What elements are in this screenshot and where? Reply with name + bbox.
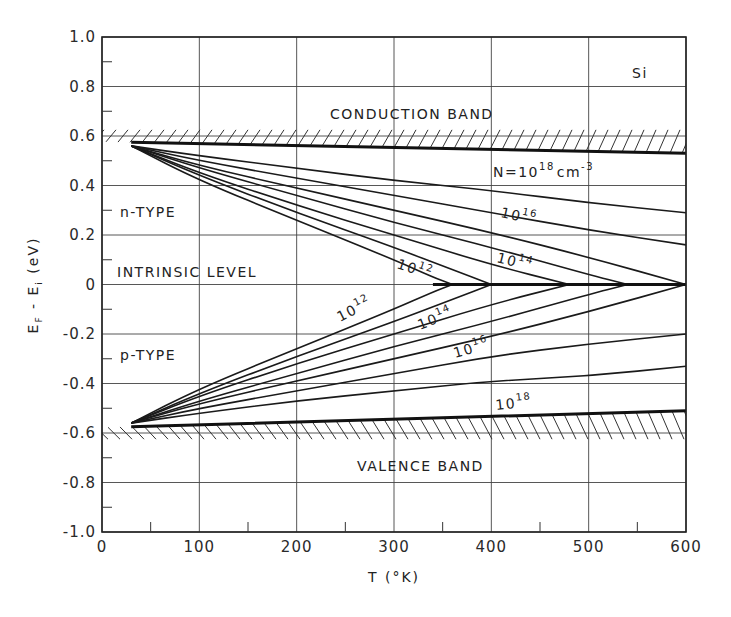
y-tick-label: -0.4 [63, 375, 96, 393]
y-tick-label: 0.8 [69, 78, 96, 96]
hatch-line [444, 418, 456, 440]
hatch-line [168, 426, 180, 440]
n-type-curve-1e18 [131, 146, 686, 213]
y-tick-label: -0.8 [63, 474, 96, 492]
hatch-line [336, 421, 348, 439]
material-label: Si [632, 65, 648, 81]
hatch-line [262, 130, 272, 145]
hatch-line [192, 425, 204, 439]
p-type-curve-1e16 [131, 285, 686, 424]
hatch-line [370, 130, 380, 147]
hatch-line [358, 130, 368, 147]
hatch-line [576, 414, 588, 439]
hatch-line [588, 413, 600, 439]
hatch-line [312, 421, 324, 439]
hatch-line [228, 424, 240, 439]
hatch-line [300, 422, 312, 439]
hatch-line [478, 130, 488, 149]
hatch-line [394, 130, 404, 148]
hatch-line [492, 416, 504, 439]
n-curve-label-1e12: 1012 [395, 253, 436, 282]
hatch-line [598, 130, 608, 152]
hatch-line [240, 423, 252, 439]
hatch-line [480, 417, 492, 440]
x-axis-title: T (°K) [367, 569, 420, 585]
hatch-line [372, 420, 384, 440]
hatch-line [504, 416, 516, 439]
hatch-line [612, 413, 624, 439]
x-tick-label: 200 [281, 538, 313, 556]
hatch-line [610, 130, 620, 152]
x-axis-tick-labels: 0100200300400500600 [97, 538, 702, 556]
hatch-line [250, 130, 260, 145]
y-tick-label: -0.6 [63, 424, 96, 442]
hatch-line [432, 418, 444, 439]
hatch-line [660, 411, 672, 439]
hatch-line [202, 130, 212, 144]
hatch-line [276, 422, 288, 439]
intrinsic-level-label: INTRINSIC LEVEL [117, 264, 257, 280]
hatch-line [226, 130, 236, 144]
y-axis-title-text: E [25, 323, 41, 334]
hatch-line [216, 424, 228, 439]
p-type-label: p-TYPE [120, 347, 176, 363]
x-tick-label: 300 [378, 538, 410, 556]
hatch-line [396, 419, 408, 439]
hatch-line [586, 130, 596, 152]
hatch-line [634, 130, 644, 153]
hatch-line [418, 130, 428, 148]
y-tick-label: -0.2 [63, 325, 96, 343]
hatch-line [420, 418, 432, 439]
n-type-label: n-TYPE [120, 204, 176, 220]
valence-band-label: VALENCE BAND [357, 458, 484, 474]
n-curve-label-1e14: 1014 [495, 246, 535, 273]
hatch-line [648, 412, 660, 440]
hatch-line [516, 415, 528, 439]
conduction-band-label: CONDUCTION BAND [330, 106, 494, 122]
hatch-line [180, 425, 192, 439]
y-tick-label: -1.0 [63, 523, 96, 541]
hatch-line [348, 420, 360, 439]
hatch-line [564, 414, 576, 439]
y-tick-label: 0 [85, 276, 96, 294]
y-tick-label: 0.4 [69, 177, 96, 195]
hatch-line [310, 130, 320, 146]
x-tick-label: 400 [476, 538, 508, 556]
hatch-line [624, 412, 636, 439]
hatch-line [360, 420, 372, 439]
hatch-line [550, 130, 560, 151]
hatch-line [406, 130, 416, 148]
hatch-line [646, 130, 656, 153]
y-axis-title: EF - Ei (eV) [25, 237, 44, 334]
hatch-line [190, 130, 200, 144]
hatch-line [514, 130, 524, 150]
hatch-line [204, 425, 216, 440]
hatch-line [274, 130, 284, 145]
hatch-line [636, 412, 648, 439]
p-type-curve-3e17 [131, 334, 686, 423]
hatch-line [430, 130, 440, 149]
hatch-line [178, 130, 188, 143]
hatch-line [442, 130, 452, 149]
p-curve-label-1e16: 1016 [451, 333, 491, 361]
hatch-line [682, 130, 692, 154]
n-curve-label-1e16: 1016 [499, 201, 539, 227]
hatch-line [298, 130, 308, 146]
y-tick-label: 1.0 [69, 28, 96, 46]
hatch-line [408, 419, 420, 440]
hatch-line [468, 417, 480, 439]
hatch-line [456, 417, 468, 439]
hatch-line [288, 422, 300, 439]
hatch-line [322, 130, 332, 146]
x-tick-label: 600 [670, 538, 702, 556]
hatch-line [324, 421, 336, 439]
hatch-line [600, 413, 612, 439]
hatch-line [214, 130, 224, 144]
hatch-line [574, 130, 584, 151]
hatch-line [382, 130, 392, 148]
hatch-line [540, 415, 552, 439]
hatch-line [670, 130, 680, 153]
hatch-line [466, 130, 476, 149]
x-tick-label: 100 [184, 538, 216, 556]
hatch-line [346, 130, 356, 147]
